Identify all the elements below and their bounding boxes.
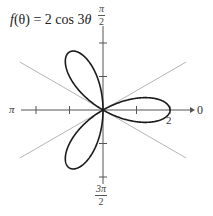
axis-label-zero: 0 bbox=[197, 104, 203, 116]
polar-axis-arrow-icon bbox=[190, 107, 195, 113]
axis-label-3pi-over-2: 3π2 bbox=[95, 184, 107, 207]
radial-tick-label-2: 2 bbox=[166, 115, 172, 126]
chart-title: f(θ) = 2 cos 3θ bbox=[6, 12, 95, 28]
axis-label-pi: π bbox=[9, 104, 15, 115]
polar-axes bbox=[21, 26, 190, 184]
axis-label-pi-over-2: π2 bbox=[98, 4, 105, 27]
